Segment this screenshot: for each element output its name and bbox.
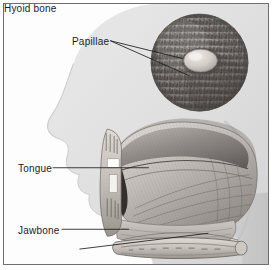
incisor-highlight-lower bbox=[109, 175, 117, 193]
incisor-highlight-upper bbox=[107, 159, 119, 168]
label-papillae: Papillae bbox=[72, 37, 109, 47]
jawbone bbox=[100, 129, 122, 236]
figure-frame: Papillae Tongue Jawbone Hyoid bone bbox=[3, 3, 269, 265]
circumvallate-papilla bbox=[182, 48, 222, 76]
figure-root: Papillae Tongue Jawbone Hyoid bone bbox=[0, 0, 274, 270]
label-hyoid-bone: Hyoid bone bbox=[4, 4, 57, 14]
label-jawbone: Jawbone bbox=[18, 226, 59, 236]
label-tongue: Tongue bbox=[18, 164, 52, 174]
hyoid-greater-horn bbox=[235, 241, 247, 255]
